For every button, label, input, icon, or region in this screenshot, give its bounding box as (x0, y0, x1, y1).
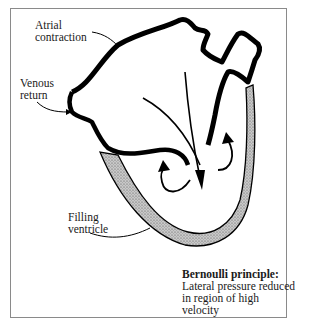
recirc-arrow-right (218, 140, 232, 170)
label-venous-return: Venous return (20, 77, 54, 101)
caption: Bernoulli principle: Lateral pressure re… (182, 268, 298, 316)
caption-title: Bernoulli principle: (182, 268, 298, 280)
caption-line-1: Lateral pressure reduced (182, 280, 298, 292)
label-atrial-contraction: Atrial contraction (35, 19, 87, 43)
label-line: return (20, 89, 54, 101)
label-line: Venous (20, 77, 54, 89)
atrium-lower-outline (70, 92, 188, 165)
leader-venous (37, 102, 68, 112)
label-line: Atrial (35, 19, 87, 31)
ventricle-wall (100, 85, 255, 246)
recirc-arrowhead-right (222, 132, 234, 144)
atrium-outline (72, 19, 260, 145)
recirc-arrowhead-left (158, 160, 170, 172)
flow-arrowhead-center (195, 170, 205, 190)
label-line: ventricle (68, 223, 108, 235)
leader-atrial (92, 32, 118, 46)
label-line: contraction (35, 31, 87, 43)
caption-line-2: in region of high velocity (182, 292, 298, 316)
label-filling-ventricle: Filling ventricle (68, 211, 108, 235)
recirc-arrow-left (161, 168, 190, 192)
label-line: Filling (68, 211, 108, 223)
